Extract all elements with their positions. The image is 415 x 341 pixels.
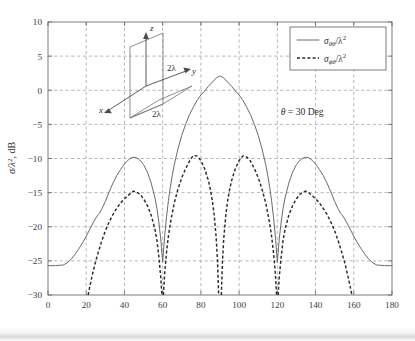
y-tick-label: −20 (28, 222, 43, 232)
x-axis-title: ϕ (Deg) (204, 316, 235, 328)
y-tick-labels: −30−25−20−15−10−50510 (28, 17, 43, 300)
inset-y-arrowhead (183, 68, 191, 74)
x-tick-label: 180 (385, 300, 399, 310)
curve-sigma_phi_theta (278, 191, 352, 295)
theta-annotation: θ = 30 Deg (281, 106, 324, 117)
x-tick-label: 120 (270, 300, 284, 310)
y-tick-label: −10 (28, 154, 43, 164)
x-tick-label: 60 (158, 300, 168, 310)
curve-sigma_phi_theta (88, 191, 162, 295)
y-tick-label: 10 (33, 17, 43, 27)
x-tick-label: 140 (309, 300, 323, 310)
y-tick-label: −30 (28, 290, 43, 300)
x-tick-label: 80 (196, 300, 206, 310)
y-axis-title: σ/λ2, dB (6, 142, 18, 175)
inset-plate-vertical (130, 33, 163, 118)
inset-dimension-right: 2λ (167, 63, 177, 73)
inset-z-arrowhead (143, 32, 149, 39)
y-tick-label: −15 (28, 188, 43, 198)
rcs-figure: 020406080100120140160180 −30−25−20−15−10… (0, 0, 415, 341)
y-tick-label: 0 (37, 86, 42, 96)
inset-dimension-bottom: 2λ (152, 109, 162, 119)
chart-canvas: 020406080100120140160180 −30−25−20−15−10… (0, 0, 415, 341)
x-tick-label: 0 (46, 300, 51, 310)
x-tick-labels: 020406080100120140160180 (46, 300, 400, 310)
x-tick-label: 40 (120, 300, 130, 310)
geometry-inset: z y x 2λ 2λ (98, 23, 196, 119)
inset-axis-label-y: y (191, 66, 196, 76)
legend[interactable]: σθθ/λ2 σϕθ/λ2 (290, 27, 386, 70)
inset-axis-label-z: z (149, 23, 154, 33)
x-tick-label: 100 (232, 300, 246, 310)
inset-x-axis (109, 86, 146, 110)
y-tick-label: −5 (32, 120, 42, 130)
x-tick-label: 160 (347, 300, 361, 310)
inset-y-axis (146, 71, 186, 86)
y-tick-label: 5 (37, 52, 42, 62)
y-tick-label: −25 (28, 256, 43, 266)
inset-axis-label-x: x (98, 105, 103, 115)
x-tick-label: 20 (82, 300, 92, 310)
